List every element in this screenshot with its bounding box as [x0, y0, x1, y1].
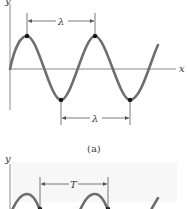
panel-a-caption: (a): [87, 143, 101, 154]
sine-wave-a: [10, 36, 158, 100]
lambda-label-bottom: λ: [91, 113, 98, 124]
panel-b-background: [12, 162, 177, 202]
x-axis-label-a: x: [179, 63, 185, 74]
y-axis-label-b: y: [4, 153, 11, 164]
y-axis-label-a: y: [4, 0, 11, 6]
arrow-right-icon: [90, 19, 94, 23]
lambda-label-top: λ: [57, 16, 64, 27]
wavelength-dimension-bottom: λ: [61, 101, 130, 125]
panel-b: y T: [4, 153, 177, 209]
wave-diagram: y x λ λ (a): [0, 0, 187, 209]
arrow-right-icon: [125, 116, 129, 120]
arrow-left-icon: [28, 19, 32, 23]
wavelength-dimension-top: λ: [27, 13, 95, 35]
panel-a: y x λ λ (a): [4, 0, 185, 154]
arrow-left-icon: [62, 116, 66, 120]
